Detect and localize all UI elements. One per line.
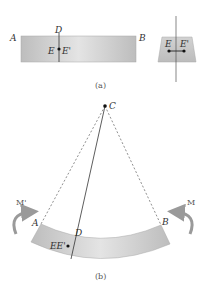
label-a: A [9, 33, 17, 43]
center-point-c [103, 104, 107, 108]
moment-label-right: M [187, 198, 195, 207]
label-ee-prime: EE' [49, 241, 66, 251]
label-b-d: D [74, 228, 82, 238]
point-e [57, 47, 60, 50]
beam-bending-figure: A B D E E' E E' (a) C A B D EE' [0, 0, 205, 288]
dashed-line-ca [41, 106, 105, 224]
section-point-e [167, 49, 170, 52]
label-e-prime: E' [61, 46, 71, 56]
moment-label-left: M' [16, 198, 26, 207]
moment-arrow-left-icon [14, 212, 30, 234]
label-b: B [138, 33, 146, 43]
section-label-e: E [164, 39, 172, 49]
moment-arrow-right-icon [176, 212, 192, 234]
point-ee-prime [66, 244, 69, 247]
label-b-a: A [31, 218, 39, 228]
section-label-e-prime: E' [179, 39, 189, 49]
part-a-cross-section [158, 16, 196, 82]
part-a-beam [21, 33, 136, 62]
label-e: E [47, 46, 55, 56]
dashed-line-cb [105, 106, 161, 225]
part-b-geometry [31, 104, 170, 259]
section-point-e-prime [182, 49, 185, 52]
label-d: D [54, 25, 62, 35]
label-b-b: B [161, 217, 169, 227]
label-c: C [109, 101, 116, 111]
caption-b: (b) [95, 272, 106, 281]
caption-a: (a) [95, 81, 106, 90]
figure-canvas: A B D E E' E E' (a) C A B D EE' [0, 0, 205, 288]
